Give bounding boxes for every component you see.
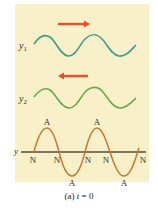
figure-caption: (a) t = 0 [0,191,158,201]
arrow-left-icon [58,73,88,80]
node-label: N [103,155,110,165]
antinode-label: A [94,117,101,127]
wave-y2-label: y2 [18,93,27,106]
wave-y1-label: y1 [18,40,27,53]
arrow-right-icon [58,21,90,28]
node-label: N [30,155,37,165]
antinode-label: A [44,117,51,127]
node-label: N [54,155,61,165]
resultant-axis-label: y [13,146,18,156]
antinode-label: A [121,178,128,188]
wave-y1 [34,34,136,56]
node-label: N [140,155,147,165]
antinode-label: A [69,178,76,188]
wave-y2 [34,87,136,108]
standing-wave-diagram: y1 y2 y A A A A N N N N N [0,0,158,211]
node-label: N [85,155,92,165]
